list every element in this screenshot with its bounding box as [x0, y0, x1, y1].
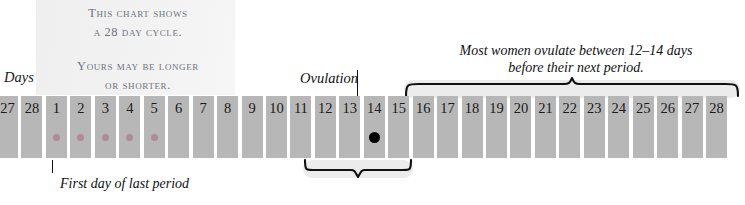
day-bar-label: 2	[70, 99, 91, 117]
intro-note-spacer	[40, 42, 236, 57]
fertile-window-brace-icon	[303, 158, 413, 180]
day-bar-label: 20	[510, 99, 531, 117]
day-bar-label: 19	[486, 99, 507, 117]
day-bar-label: 22	[559, 99, 580, 117]
day-bar-label: 5	[144, 99, 165, 117]
day-bar[interactable]: 28	[21, 96, 42, 158]
intro-note-line-1: This chart shows	[40, 4, 236, 23]
day-bar-label: 11	[290, 99, 311, 117]
day-bar[interactable]: 3	[95, 96, 116, 158]
day-bar[interactable]: 13	[339, 96, 360, 158]
day-bar-label: 9	[242, 99, 263, 117]
day-bar-label: 17	[437, 99, 458, 117]
day-bar[interactable]: 1	[46, 96, 67, 158]
day-bar-label: 14	[364, 99, 385, 117]
day-bar-label: 4	[119, 99, 140, 117]
day-bar[interactable]: 14	[364, 96, 385, 158]
luteal-phase-brace-icon	[404, 76, 740, 98]
day-bar[interactable]: 7	[193, 96, 214, 158]
day-bar[interactable]: 16	[413, 96, 434, 158]
day-bar-label: 28	[21, 99, 42, 117]
day-bar-label: 27	[682, 99, 703, 117]
day-bar-label: 12	[315, 99, 336, 117]
day-bar-label: 23	[584, 99, 605, 117]
axis-label-days: Days	[4, 69, 34, 86]
first-day-tick	[52, 160, 53, 173]
day-bar-label: 25	[633, 99, 654, 117]
day-bar[interactable]: 19	[486, 96, 507, 158]
period-dot	[126, 134, 133, 141]
intro-note-line-4: or shorter.	[40, 76, 236, 95]
day-bar-label: 6	[168, 99, 189, 117]
intro-note-line-3: Yours may be longer	[40, 57, 236, 76]
day-bar[interactable]: 27	[682, 96, 703, 158]
ovulation-dot	[369, 132, 380, 143]
day-bar[interactable]: 8	[217, 96, 238, 158]
day-bar-label: 3	[95, 99, 116, 117]
day-bar[interactable]: 26	[657, 96, 678, 158]
period-dot	[77, 134, 84, 141]
day-bar[interactable]: 9	[242, 96, 263, 158]
day-bar[interactable]: 23	[584, 96, 605, 158]
day-bar[interactable]: 11	[290, 96, 311, 158]
day-bar-label: 13	[339, 99, 360, 117]
day-bar[interactable]: 15	[388, 96, 409, 158]
day-bar-label: 16	[413, 99, 434, 117]
ovulation-callout-label: Ovulation	[300, 70, 358, 87]
day-bar[interactable]: 12	[315, 96, 336, 158]
day-bar-label: 8	[217, 99, 238, 117]
cycle-chart: This chart shows a 28 day cycle. Yours m…	[0, 0, 745, 205]
day-bar-label: 21	[535, 99, 556, 117]
day-bar[interactable]: 27	[0, 96, 18, 158]
day-bar[interactable]: 28	[706, 96, 727, 158]
day-bar[interactable]: 6	[168, 96, 189, 158]
day-bar[interactable]: 24	[608, 96, 629, 158]
day-bar[interactable]: 4	[119, 96, 140, 158]
day-bar[interactable]: 17	[437, 96, 458, 158]
day-bar-label: 7	[193, 99, 214, 117]
day-bar-track: 2728123456789101112131415161718192021222…	[0, 96, 745, 158]
day-bar[interactable]: 2	[70, 96, 91, 158]
day-bar-label: 27	[0, 99, 18, 117]
luteal-phase-annotation: Most women ovulate between 12–14 days be…	[421, 42, 731, 76]
day-bar[interactable]: 5	[144, 96, 165, 158]
day-bar-label: 18	[462, 99, 483, 117]
day-bar[interactable]: 25	[633, 96, 654, 158]
ovulation-leader-line	[357, 70, 358, 96]
intro-note-line-2: a 28 day cycle.	[40, 23, 236, 42]
day-bar-label: 26	[657, 99, 678, 117]
period-dot	[102, 134, 109, 141]
day-bar-label: 1	[46, 99, 67, 117]
day-bar-label: 24	[608, 99, 629, 117]
day-bar-label: 15	[388, 99, 409, 117]
day-bar[interactable]: 18	[462, 96, 483, 158]
first-day-caption: First day of last period	[60, 176, 189, 192]
day-bar-label: 10	[266, 99, 287, 117]
day-bar[interactable]: 20	[510, 96, 531, 158]
day-bar[interactable]: 10	[266, 96, 287, 158]
luteal-phase-annotation-line-1: Most women ovulate between 12–14 days	[421, 42, 731, 59]
day-bar-label: 28	[706, 99, 727, 117]
luteal-phase-annotation-line-2: before their next period.	[421, 59, 731, 76]
intro-note: This chart shows a 28 day cycle. Yours m…	[40, 4, 236, 95]
period-dot	[151, 134, 158, 141]
period-dot	[53, 134, 60, 141]
day-bar[interactable]: 22	[559, 96, 580, 158]
day-bar[interactable]: 21	[535, 96, 556, 158]
